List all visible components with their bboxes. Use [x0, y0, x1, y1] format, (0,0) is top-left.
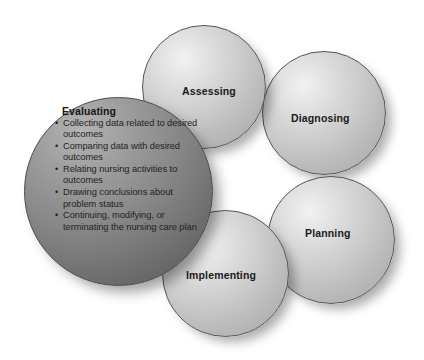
list-item: Relating nursing activities to outcomes: [55, 164, 203, 187]
list-item: Continuing, modifying, or terminating th…: [55, 210, 203, 233]
sphere-label-diagnosing: Diagnosing: [291, 113, 350, 124]
sphere-label-implementing: Implementing: [186, 270, 256, 281]
nursing-process-diagram: Assessing Diagnosing Planning Implementi…: [0, 0, 424, 360]
list-item: Collecting data related to desired outco…: [55, 118, 203, 141]
evaluating-bullet-list: Collecting data related to desired outco…: [55, 118, 203, 233]
list-item: Drawing conclusions about problem status: [55, 187, 203, 210]
sphere-label-planning: Planning: [305, 228, 351, 239]
sphere-label-assessing: Assessing: [182, 86, 236, 97]
evaluating-content: Evaluating Collecting data related to de…: [55, 105, 203, 233]
evaluating-title: Evaluating: [62, 105, 203, 117]
list-item: Comparing data with desired outcomes: [55, 141, 203, 164]
